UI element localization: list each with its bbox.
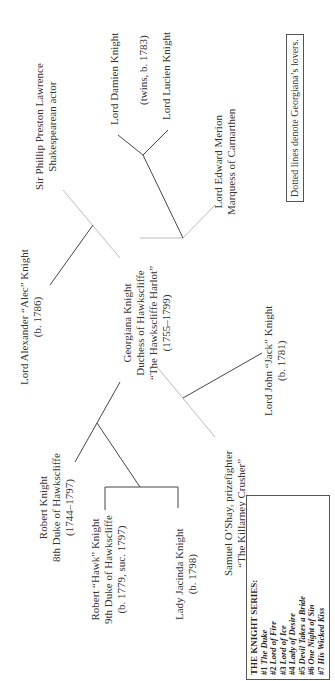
- twins-label: (twins, b. 1783): [137, 35, 150, 105]
- line-twins-trunk: [143, 155, 183, 238]
- person-dates: (1755–1799): [160, 266, 173, 380]
- person-dates: (b. 1798): [186, 528, 199, 620]
- legend-note-text: Dotted lines denote Georgiana’s lovers.: [289, 39, 300, 197]
- person-name: Lord John “Jack” Knight: [262, 306, 275, 416]
- person-edward: Lord Edward Merion Marquess of Carnarthe…: [212, 109, 238, 215]
- person-name: Sir Phillip Preston Lawrence: [33, 63, 46, 190]
- person-lucien: Lord Lucien Knight: [160, 32, 173, 120]
- person-name: Lord Alexander “Alec” Knight: [18, 249, 31, 385]
- person-damien: Lord Damien Knight: [108, 33, 121, 125]
- line-marriage-children: [97, 423, 140, 487]
- person-dates: (1744–1797): [63, 453, 76, 562]
- person-jacinda: Lady Jacinda Knight (b. 1798): [173, 528, 199, 620]
- line-to-damien: [118, 135, 143, 155]
- person-alexander: Lord Alexander “Alec” Knight (b. 1786): [18, 249, 44, 385]
- twins-note: (twins, b. 1783): [137, 35, 150, 105]
- person-detail: Shakespearean actor: [46, 63, 59, 190]
- person-dates: (b. 1781): [275, 306, 288, 416]
- line-alexander: [50, 225, 93, 285]
- knight-series-box: THE KNIGHT SERIES: #1 The Duke #2 Lord o…: [246, 495, 330, 680]
- person-name: Lady Jacinda Knight: [173, 528, 186, 620]
- person-name: Samuel O’Shay, prizefighter: [222, 451, 235, 576]
- person-name: Lord Edward Merion: [212, 109, 225, 215]
- line-edward-lover: [183, 205, 215, 238]
- person-name: Georgiana Knight: [121, 266, 134, 380]
- line-jack: [183, 353, 262, 398]
- person-georgiana: Georgiana Knight Duchess of Hawkscliffe …: [121, 266, 173, 380]
- person-title: Marquess of Carnarthen: [225, 109, 238, 215]
- person-robert-8th-duke: Robert Knight 8th Duke of Hawkscliffe (1…: [37, 453, 76, 562]
- person-samuel: Samuel O’Shay, prizefighter “The Killarn…: [222, 451, 248, 576]
- series-book: #7 His Wicked Kiss: [317, 500, 327, 675]
- person-nickname: “The Hawkscliffe Harlot”: [147, 266, 160, 380]
- person-hawk-9th-duke: Robert “Hawk” Knight 9th Duke of Hawkscl…: [89, 515, 128, 624]
- person-name: Lord Damien Knight: [108, 33, 121, 125]
- person-title: 8th Duke of Hawkscliffe: [50, 453, 63, 562]
- person-name: Robert Knight: [37, 453, 50, 562]
- person-detail: (b. 1786): [31, 249, 44, 385]
- person-title: 9th Duke of Hawkscliffe: [102, 515, 115, 624]
- person-dates: (b. 1779, suc. 1797): [115, 515, 128, 624]
- line-marriage-georgiana: [97, 382, 120, 423]
- person-phillip: Sir Phillip Preston Lawrence Shakespeare…: [33, 63, 59, 190]
- line-to-lucien: [143, 130, 168, 155]
- person-title: Duchess of Hawkscliffe: [134, 266, 147, 380]
- person-name: Lord Lucien Knight: [160, 32, 173, 120]
- person-jack: Lord John “Jack” Knight (b. 1781): [262, 306, 288, 416]
- legend-note-box: Dotted lines denote Georgiana’s lovers.: [286, 34, 304, 202]
- line-robert-marriage: [75, 423, 97, 462]
- line-phillip-lover: [63, 190, 120, 258]
- person-name: Robert “Hawk” Knight: [89, 515, 102, 624]
